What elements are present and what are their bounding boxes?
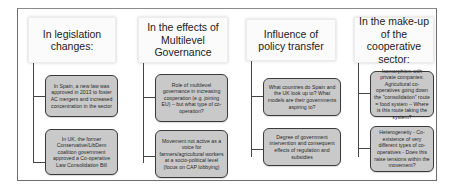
topic-box: Role of multilevel governance in increas… [155,74,228,122]
topic-box: In UK, the former Conservative/LibDem co… [45,129,118,175]
connector-vertical [358,63,359,157]
topic-box: Movement not active as a voice for farme… [155,130,228,178]
column-header: In the effects of Multilevel Governance [138,17,228,63]
column-header: In the make-up of the cooperative sector… [354,17,434,63]
column-header: Influence of policy transfer [246,19,336,61]
column-cooperative-sector: In the make-up of the cooperative sector… [346,9,438,180]
column-header: In legislation changes: [28,17,116,63]
connector-vertical [251,61,252,157]
topic-box: What countries do Spain and the UK look … [263,78,341,116]
connector-vertical [33,63,34,163]
topic-box: In Spain, a new law was approved in 2013… [45,75,118,117]
topic-box: Degree of government intervention and co… [263,128,341,166]
column-legislation: In legislation changes: In Spain, a new … [18,9,123,180]
topic-box: Heterogeneity - Co-existence of very dif… [370,126,434,172]
column-multilevel-governance: In the effects of Multilevel Governance … [128,9,233,180]
connector-vertical [143,63,144,163]
topic-box: Isomorphism with private companies: Agri… [370,71,434,117]
column-policy-transfer: Influence of policy transfer What countr… [236,9,341,180]
diagram-frame: In legislation changes: In Spain, a new … [17,8,437,181]
